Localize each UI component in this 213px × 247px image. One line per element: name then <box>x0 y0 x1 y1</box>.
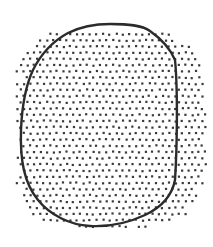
stipple-dot <box>119 175 121 177</box>
stipple-dot <box>162 120 164 122</box>
stipple-dot <box>198 64 200 66</box>
stipple-dot <box>115 58 117 60</box>
stipple-dot <box>128 169 130 171</box>
stipple-dot <box>96 82 98 84</box>
stipple-dot <box>119 89 121 91</box>
stipple-dot <box>36 133 38 135</box>
stipple-dot <box>165 64 167 66</box>
stipple-dot <box>138 201 140 203</box>
stipple-dot <box>49 70 51 72</box>
stipple-dot <box>125 175 127 177</box>
stipple-dot <box>168 207 170 209</box>
stipple-dot <box>105 213 107 215</box>
stipple-dot <box>125 102 127 104</box>
stipple-dot <box>82 206 84 208</box>
stipple-dot <box>151 127 153 129</box>
stipple-dot <box>134 120 136 122</box>
stipple-dot <box>23 182 25 184</box>
stipple-dot <box>65 138 67 140</box>
stipple-dot <box>92 113 94 115</box>
stipple-dot <box>53 139 55 141</box>
stipple-dot <box>191 126 193 128</box>
stipple-dot <box>165 102 167 104</box>
stipple-dot <box>73 213 75 215</box>
stipple-dot <box>112 163 114 165</box>
stipple-dot <box>19 176 21 178</box>
stipple-dot <box>65 39 67 41</box>
stipple-dot <box>165 40 167 42</box>
stipple-dot <box>36 169 38 171</box>
stipple-dot <box>109 219 111 221</box>
stipple-dot <box>191 151 193 153</box>
stipple-dot <box>145 126 147 128</box>
stipple-dot <box>69 169 71 171</box>
stipple-dot <box>62 107 64 109</box>
stipple-dot <box>68 145 70 147</box>
stipple-dot <box>194 58 196 60</box>
stipple-dot <box>125 163 127 165</box>
stipple-dot <box>168 70 170 72</box>
stipple-dot <box>185 126 187 128</box>
stipple-dot <box>83 194 85 196</box>
stipple-dot <box>155 132 157 134</box>
stipple-dot <box>139 52 141 54</box>
stipple-dot <box>148 46 150 48</box>
stipple-dot <box>42 58 44 60</box>
stipple-dot <box>158 213 160 215</box>
stipple-dot <box>63 145 65 147</box>
stipple-dot <box>111 212 113 214</box>
stipple-dot <box>93 176 95 178</box>
stipple-dot <box>195 144 197 146</box>
stipple-dot <box>65 65 67 67</box>
stipple-dot <box>46 76 48 78</box>
stipple-dot <box>52 188 54 190</box>
stipple-dot <box>93 151 95 153</box>
stipple-dot <box>131 212 133 214</box>
stipple-dot <box>50 108 52 110</box>
stipple-dot <box>139 101 141 103</box>
stipple-dot <box>191 188 193 190</box>
stipple-dot <box>151 200 153 202</box>
stipple-dot <box>62 181 64 183</box>
stipple-dot <box>184 114 186 116</box>
stipple-dot <box>68 70 70 72</box>
stipple-dot <box>56 33 58 35</box>
stipple-dot <box>29 182 31 184</box>
stipple-dot <box>39 138 41 140</box>
stipple-dot <box>112 77 114 79</box>
stipple-dot <box>149 120 151 122</box>
stipple-dot <box>161 108 163 110</box>
stipple-dot <box>63 132 65 134</box>
stipple-dot <box>89 194 91 196</box>
blob-drawing <box>0 0 213 247</box>
stipple-dot <box>75 145 77 147</box>
stipple-dot <box>52 39 54 41</box>
stipple-dot <box>125 76 127 78</box>
stipple-dot <box>43 219 45 221</box>
stipple-dot <box>142 120 144 122</box>
stipple-dot <box>155 182 157 184</box>
stipple-dot <box>118 151 120 153</box>
stipple-dot <box>165 176 167 178</box>
stippled-blob-illustration <box>0 0 213 247</box>
stipple-dot <box>162 132 164 134</box>
stipple-dot <box>155 144 157 146</box>
stipple-dot <box>145 39 147 41</box>
stipple-dot <box>126 114 128 116</box>
stipple-dot <box>101 45 103 47</box>
stipple-dot <box>135 157 137 159</box>
stipple-dot <box>99 213 101 215</box>
stipple-dot <box>108 83 110 85</box>
stipple-dot <box>122 207 124 209</box>
stipple-dot <box>56 157 58 159</box>
stipple-dot <box>201 120 203 122</box>
stipple-dot <box>83 219 85 221</box>
stipple-dot <box>69 83 71 85</box>
stipple-dot <box>16 70 18 72</box>
stipple-dot <box>162 145 164 147</box>
stipple-dot <box>155 96 157 98</box>
stipple-dot <box>30 119 32 121</box>
stipple-dot <box>135 58 137 60</box>
stipple-dot <box>165 164 167 166</box>
stipple-dot <box>168 34 170 36</box>
